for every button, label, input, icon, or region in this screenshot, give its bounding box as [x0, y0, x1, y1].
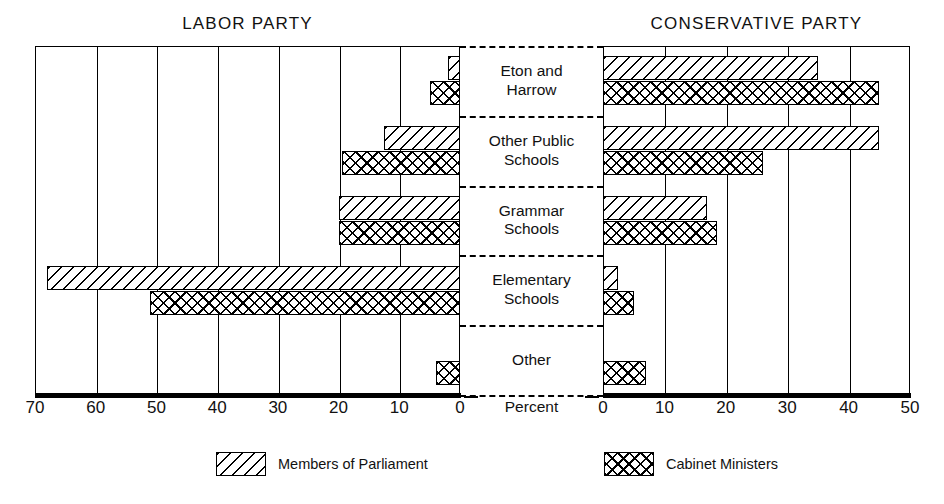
- bar-labor-mp-row4: [47, 266, 460, 290]
- bar-labor-cabinet-row2: [342, 151, 460, 175]
- chart-canvas: LABOR PARTY CONSERVATIVE PARTY Eton andH…: [0, 0, 944, 504]
- category-label-1: Eton andHarrow: [460, 46, 603, 116]
- category-label-text: Eton andHarrow: [500, 62, 562, 100]
- bar-conservative-cabinet-row5: [603, 361, 646, 385]
- category-divider-0: [460, 46, 603, 48]
- legend-swatch-diagonal-hatch-icon: [216, 452, 266, 476]
- bar-labor-mp-row2: [384, 126, 460, 150]
- category-label-text: GrammarSchools: [499, 202, 564, 240]
- x-axis-unit-label: Percent: [460, 398, 603, 416]
- category-label-text: Other PublicSchools: [489, 132, 574, 170]
- legend-swatch-cross-hatch-icon: [604, 452, 654, 476]
- category-divider-1: [460, 116, 603, 118]
- legend-label-cabinet-ministers: Cabinet Ministers: [666, 456, 778, 472]
- category-divider-3: [460, 255, 603, 257]
- bar-conservative-mp-row1: [603, 56, 818, 80]
- bar-conservative-mp-row2: [603, 126, 879, 150]
- bar-conservative-mp-row3: [603, 196, 707, 220]
- bar-conservative-cabinet-row2: [603, 151, 763, 175]
- bar-labor-cabinet-row5: [436, 361, 460, 385]
- x-tick-label-labor-0: 0: [455, 398, 464, 418]
- x-tick-label-conservative-50: 50: [901, 398, 920, 418]
- bar-labor-mp-row1: [448, 56, 460, 80]
- x-tick-label-labor-70: 70: [26, 398, 45, 418]
- gridline-30: [279, 47, 280, 394]
- legend-item-members-of-parliament: Members of Parliament: [216, 452, 428, 476]
- legend: Members of Parliament Cabinet Ministers: [0, 452, 944, 482]
- category-label-3: GrammarSchools: [460, 186, 603, 256]
- gridline-60: [97, 47, 98, 394]
- x-tick-label-conservative-10: 10: [655, 398, 674, 418]
- legend-item-cabinet-ministers: Cabinet Ministers: [604, 452, 778, 476]
- x-tick-label-labor-10: 10: [390, 398, 409, 418]
- category-label-column: Eton andHarrowOther PublicSchoolsGrammar…: [460, 46, 603, 395]
- x-tick-label-labor-50: 50: [147, 398, 166, 418]
- bar-labor-mp-row3: [339, 196, 460, 220]
- category-label-text: ElementarySchools: [492, 271, 570, 309]
- panel-title-conservative: CONSERVATIVE PARTY: [603, 14, 910, 34]
- panel-title-labor: LABOR PARTY: [35, 14, 460, 34]
- category-divider-4: [460, 325, 603, 327]
- x-axis-rule-conservative: [603, 393, 911, 398]
- category-label-text: Other: [512, 351, 551, 370]
- category-label-4: ElementarySchools: [460, 255, 603, 325]
- x-tick-label-conservative-20: 20: [716, 398, 735, 418]
- x-tick-label-conservative-40: 40: [839, 398, 858, 418]
- bar-conservative-cabinet-row3: [603, 221, 717, 245]
- bar-labor-cabinet-row4: [150, 291, 460, 315]
- category-label-5: Other: [460, 325, 603, 395]
- x-tick-label-conservative-0: 0: [598, 398, 607, 418]
- category-divider-2: [460, 186, 603, 188]
- bar-conservative-mp-row4: [603, 266, 618, 290]
- x-tick-label-labor-60: 60: [86, 398, 105, 418]
- gridline-40: [218, 47, 219, 394]
- bar-conservative-cabinet-row4: [603, 291, 634, 315]
- category-label-2: Other PublicSchools: [460, 116, 603, 186]
- x-tick-label-labor-20: 20: [329, 398, 348, 418]
- bar-labor-cabinet-row1: [430, 81, 460, 105]
- gridline-50: [157, 47, 158, 394]
- bar-conservative-cabinet-row1: [603, 81, 879, 105]
- x-tick-label-labor-40: 40: [208, 398, 227, 418]
- category-divider-5: [460, 395, 603, 397]
- x-tick-label-labor-30: 30: [268, 398, 287, 418]
- bar-labor-cabinet-row3: [339, 221, 460, 245]
- x-tick-label-conservative-30: 30: [778, 398, 797, 418]
- legend-label-members-of-parliament: Members of Parliament: [278, 456, 428, 472]
